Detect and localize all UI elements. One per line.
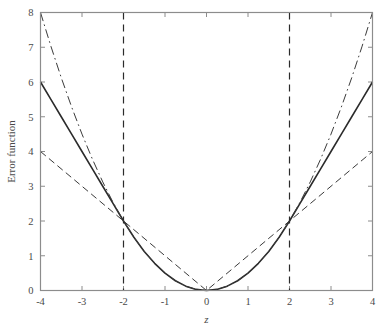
x-tick-label: -2 xyxy=(119,296,128,307)
y-tick-label: 5 xyxy=(28,112,33,123)
x-axis-title: z xyxy=(203,313,209,325)
y-tick-label: 1 xyxy=(28,251,33,262)
y-tick-labels: 012345678 xyxy=(28,7,34,296)
error-function-plot: -4-3-2-101234012345678zError function xyxy=(0,0,391,328)
y-axis-title: Error function xyxy=(5,120,17,183)
y-tick-label: 6 xyxy=(28,77,33,88)
x-tick-label: 0 xyxy=(204,296,209,307)
y-tick-label: 2 xyxy=(28,216,33,227)
y-tick-label: 4 xyxy=(28,146,34,157)
y-tick-label: 7 xyxy=(28,42,33,53)
x-tick-label: 4 xyxy=(370,296,376,307)
x-tick-label: -3 xyxy=(78,296,87,307)
x-tick-label: 2 xyxy=(287,296,292,307)
y-tick-label: 3 xyxy=(28,181,33,192)
x-tick-label: 1 xyxy=(245,296,250,307)
y-tick-label: 0 xyxy=(28,285,33,296)
x-tick-label: 3 xyxy=(328,296,333,307)
figure-background xyxy=(0,0,391,328)
x-tick-label: -4 xyxy=(36,296,45,307)
x-tick-label: -1 xyxy=(161,296,170,307)
y-tick-label: 8 xyxy=(28,7,33,18)
chart-figure: -4-3-2-101234012345678zError function xyxy=(0,0,391,328)
